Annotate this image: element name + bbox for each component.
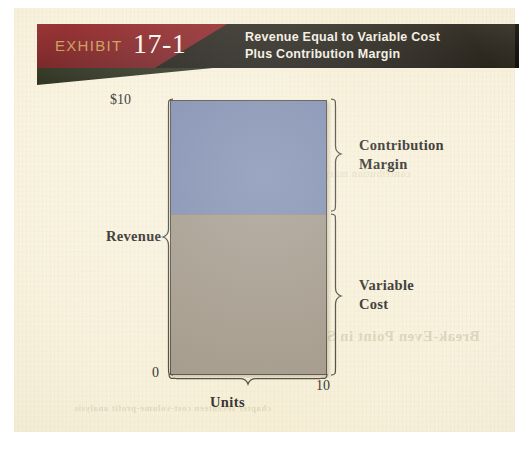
exhibit-paper-panel: Break-Even Point in Sales Dollars chapte…	[14, 8, 515, 432]
x-axis-title: Units	[210, 394, 245, 411]
legend-label-contribution-margin: Contribution Margin	[359, 136, 444, 174]
x-axis-max-label: 10	[316, 378, 330, 394]
bar-segment-variable-cost	[171, 214, 326, 374]
bar-segment-contribution-margin	[171, 101, 326, 214]
legend-cm-line-1: Contribution	[359, 136, 444, 155]
legend-cm-line-2: Margin	[359, 155, 444, 174]
y-axis-max-label: $10	[110, 92, 131, 108]
legend-vc-line-2: Cost	[359, 295, 414, 314]
bar-segment-divider	[171, 214, 326, 215]
segment-braces-icon	[329, 98, 343, 376]
y-axis-min-label: 0	[152, 365, 159, 381]
legend-vc-line-1: Variable	[359, 276, 414, 295]
units-axis-brace-icon	[168, 373, 329, 386]
stacked-bar-chart: $10 0 10 Units Revenue Contribution Marg…	[14, 8, 515, 432]
revenue-brace-icon	[162, 98, 174, 376]
y-axis-title-revenue: Revenue	[106, 228, 161, 245]
revenue-stacked-bar	[170, 100, 327, 375]
legend-label-variable-cost: Variable Cost	[359, 276, 414, 314]
